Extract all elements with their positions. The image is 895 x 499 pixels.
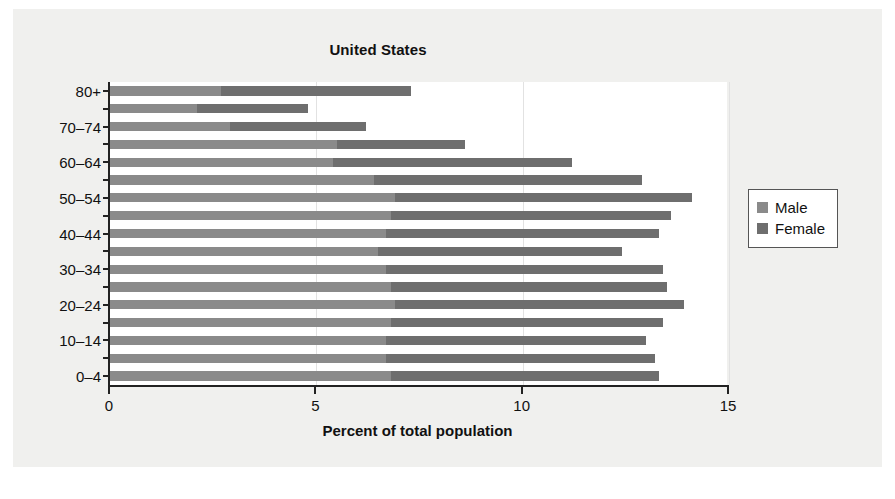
bar-segment-female (378, 247, 621, 256)
bar-group (110, 104, 727, 113)
bar-segment-male (110, 140, 337, 149)
x-axis-line (108, 385, 729, 387)
bar-segment-female (386, 354, 654, 363)
bar-segment-male (110, 282, 391, 291)
bar-segment-male (110, 354, 386, 363)
y-tick-label: 20–24 (59, 296, 101, 313)
y-tick-label: 30–34 (59, 261, 101, 278)
bar-segment-female (386, 229, 658, 238)
legend-label-female: Female (775, 220, 825, 237)
y-tick-label: 80+ (76, 82, 101, 99)
bar-group (110, 354, 727, 363)
bar-segment-male (110, 300, 395, 309)
bar-group (110, 193, 727, 202)
bar-segment-male (110, 122, 230, 131)
bar-segment-female (230, 122, 366, 131)
bar-segment-male (110, 104, 197, 113)
bar-group (110, 282, 727, 291)
bar-segment-female (395, 300, 684, 309)
x-tick-label: 10 (513, 397, 530, 414)
x-tick-label: 15 (720, 397, 737, 414)
bar-segment-male (110, 229, 386, 238)
x-axis-title: Percent of total population (108, 422, 727, 439)
bar-segment-female (374, 175, 642, 184)
y-tick-label: 10–14 (59, 332, 101, 349)
y-tick-label: 70–74 (59, 118, 101, 135)
bar-group (110, 211, 727, 220)
y-axis-labels: 0–410–1420–2430–3440–4450–5460–6470–7480… (13, 82, 101, 385)
bar-segment-female (395, 193, 692, 202)
bar-segment-female (337, 140, 465, 149)
bar-group (110, 229, 727, 238)
x-tick-label: 0 (105, 397, 113, 414)
bar-segment-male (110, 86, 221, 95)
x-tick-label: 5 (311, 397, 319, 414)
figure-canvas: United States 0–410–1420–2430–3440–4450–… (13, 9, 882, 467)
gridline (729, 82, 730, 385)
bar-group (110, 318, 727, 327)
x-tick-mark (108, 387, 110, 394)
bar-segment-male (110, 211, 391, 220)
bar-group (110, 336, 727, 345)
bar-segment-male (110, 336, 386, 345)
bar-segment-male (110, 265, 386, 274)
y-tick-label: 60–64 (59, 154, 101, 171)
legend-item[interactable]: Male (757, 197, 825, 218)
bar-segment-male (110, 158, 333, 167)
bar-segment-female (391, 318, 663, 327)
x-tick-mark (314, 387, 316, 394)
bar-segment-male (110, 175, 374, 184)
y-tick-label: 40–44 (59, 225, 101, 242)
chart-title: United States (13, 41, 743, 58)
legend-label-male: Male (775, 199, 808, 216)
bar-segment-male (110, 371, 391, 380)
legend-item[interactable]: Female (757, 218, 825, 239)
plot-area (108, 82, 727, 385)
bar-group (110, 247, 727, 256)
bar-segment-female (386, 265, 662, 274)
bar-segment-male (110, 247, 378, 256)
x-tick-mark (727, 387, 729, 394)
bar-segment-female (221, 86, 411, 95)
bar-group (110, 86, 727, 95)
x-tick-mark (521, 387, 523, 394)
bar-segment-female (391, 371, 659, 380)
bar-group (110, 158, 727, 167)
bar-group (110, 265, 727, 274)
legend-swatch-female (757, 223, 768, 234)
bar-group (110, 300, 727, 309)
bar-segment-female (197, 104, 308, 113)
bar-group (110, 140, 727, 149)
legend-swatch-male (757, 202, 768, 213)
bar-segment-female (391, 211, 672, 220)
y-tick-label: 0–4 (76, 368, 101, 385)
bar-group (110, 371, 727, 380)
bar-group (110, 122, 727, 131)
bar-segment-male (110, 318, 391, 327)
legend: Male Female (748, 189, 838, 248)
bar-segment-female (386, 336, 646, 345)
bar-segment-female (391, 282, 667, 291)
bar-segment-female (333, 158, 572, 167)
y-tick-label: 50–54 (59, 189, 101, 206)
bar-group (110, 175, 727, 184)
bar-segment-male (110, 193, 395, 202)
